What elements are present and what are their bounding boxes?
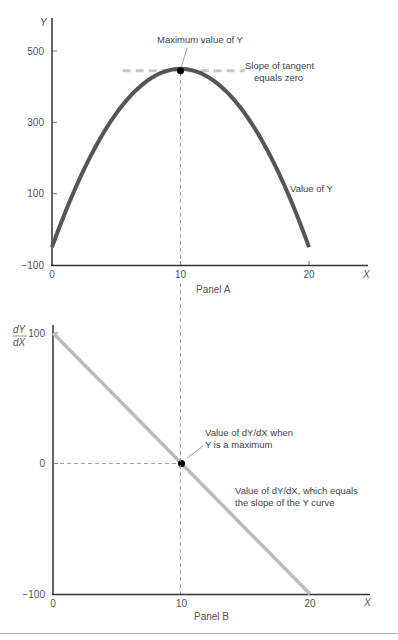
panel-b-x-axis-title: X: [363, 597, 371, 608]
panel-a-y-tick-label: −100: [21, 260, 44, 271]
panel-b-y-axis-title-denominator: dX: [13, 337, 26, 348]
panel-b-label: Panel B: [194, 611, 229, 622]
panel-b-line-label-2: the slope of the Y curve: [235, 497, 334, 508]
panel-a-x-tick-label: 0: [49, 269, 55, 280]
panel-a-y-axis-title: Y: [40, 17, 48, 28]
panel-b-zero-label-1: Value of dY/dX when: [205, 427, 293, 438]
panel-b-y-tick-label: 0: [39, 458, 45, 469]
panel-b: dY dX X −1000100 01020 Value of dY/dX wh…: [13, 324, 371, 622]
panel-a-label: Panel A: [196, 284, 231, 295]
panel-b-y-tick-label: −100: [22, 589, 45, 600]
panel-a-y-tick-label: 300: [27, 117, 44, 128]
panel-b-x-tick-label: 20: [304, 598, 316, 609]
panel-a: Y X −100100300500 01020 Maximum value of…: [21, 17, 370, 295]
panel-a-x-tick-label: 20: [303, 269, 315, 280]
panel-a-tangent-label-1: Slope of tangent: [245, 60, 315, 71]
panel-a-max-label: Maximum value of Y: [157, 34, 244, 45]
panel-a-tangent-label-2: equals zero: [254, 72, 303, 83]
panel-a-x-axis-title: X: [362, 269, 370, 280]
panel-b-y-tick-label: 100: [28, 328, 45, 339]
panel-b-x-tick-label: 10: [176, 598, 188, 609]
panel-a-max-leader: [181, 48, 187, 68]
panel-a-y-tick-label: 500: [27, 46, 44, 57]
chart-figure: Y X −100100300500 01020 Maximum value of…: [0, 0, 398, 640]
panel-b-zero-point: [178, 460, 185, 467]
panel-a-max-point: [177, 67, 184, 74]
panel-b-line-label-1: Value of dY/dX, which equals: [235, 485, 358, 496]
panel-b-zero-leader: [187, 446, 203, 458]
panel-b-y-axis-title-numerator: dY: [13, 324, 27, 335]
panel-b-zero-label-2: Y is a maximum: [205, 439, 272, 450]
panel-a-curve-label: Value of Y: [290, 183, 334, 194]
panel-b-x-tick-label: 0: [50, 598, 56, 609]
panel-a-x-tick-label: 10: [175, 269, 187, 280]
panel-a-y-tick-label: 100: [27, 188, 44, 199]
